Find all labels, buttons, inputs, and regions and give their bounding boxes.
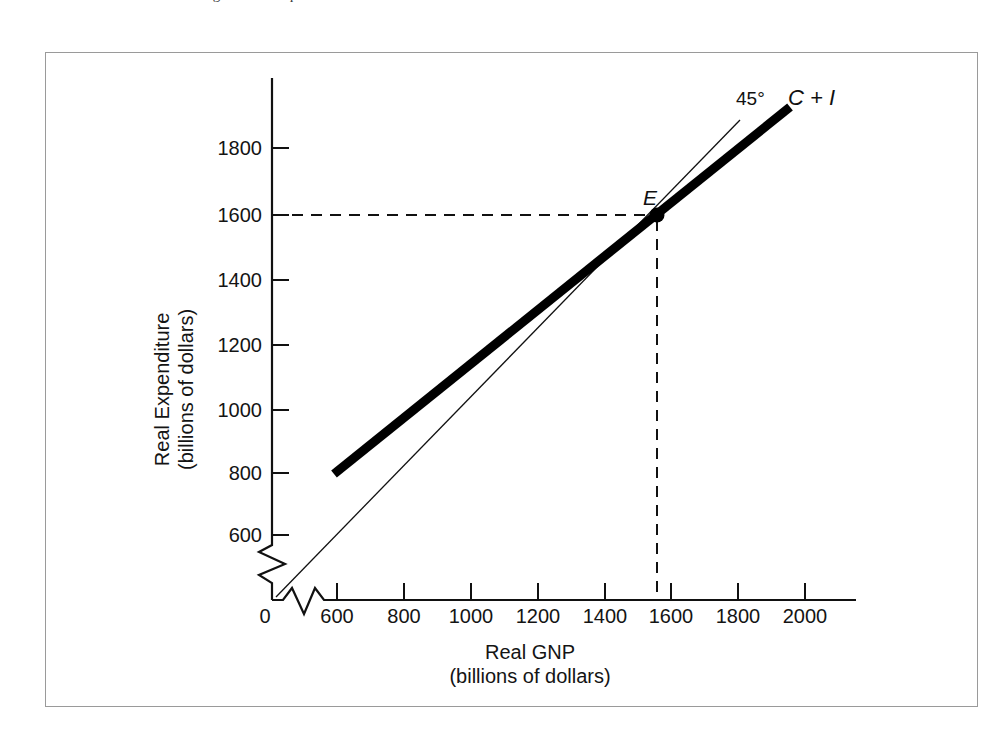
chart-plot-area: 1800 1600 1400 1200 1000 800 600 0 600 8… — [0, 0, 1007, 745]
x-tick-label-1800: 1800 — [716, 605, 761, 628]
y-axis-title: Real Expenditure (billions of dollars) — [150, 309, 199, 470]
origin-label: 0 — [259, 605, 270, 628]
y-tick-label-1200: 1200 — [190, 334, 262, 357]
x-axis-title: Real GNP (billions of dollars) — [420, 640, 640, 689]
x-axis-title-line2: (billions of dollars) — [420, 664, 640, 688]
y-axis-title-line2: (billions of dollars) — [174, 309, 198, 470]
equilibrium-point-label: E — [643, 186, 657, 210]
c-plus-i-line — [334, 107, 790, 474]
x-tick-label-1000: 1000 — [449, 605, 494, 628]
x-tick-label-800: 800 — [387, 605, 420, 628]
y-tick-label-800: 800 — [190, 462, 262, 485]
y-axis-title-line1: Real Expenditure — [150, 309, 174, 470]
forty-five-degree-label: 45° — [736, 88, 765, 110]
x-tick-label-600: 600 — [320, 605, 353, 628]
y-tick-label-1600: 1600 — [190, 204, 262, 227]
x-tick-label-2000: 2000 — [783, 605, 828, 628]
y-tick-label-600: 600 — [190, 524, 262, 547]
x-tick-label-1400: 1400 — [583, 605, 628, 628]
x-tick-label-1600: 1600 — [649, 605, 694, 628]
y-axis-break-zigzag — [259, 535, 285, 600]
x-axis-title-line1: Real GNP — [420, 640, 640, 664]
y-tick-label-1800: 1800 — [190, 137, 262, 160]
c-plus-i-label: C + I — [788, 85, 835, 111]
y-tick-label-1000: 1000 — [190, 399, 262, 422]
x-tick-label-1200: 1200 — [516, 605, 561, 628]
y-tick-label-1400: 1400 — [190, 269, 262, 292]
forty-five-degree-line — [276, 120, 740, 597]
